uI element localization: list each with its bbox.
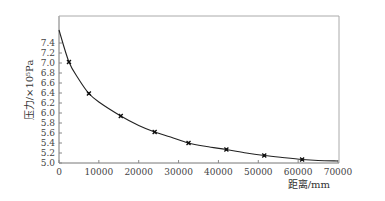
x-tick-label: 0 (56, 167, 62, 177)
x-tick-label: 30000 (164, 167, 193, 177)
x-tick-label: 40000 (204, 167, 233, 177)
x-tick-label: 60000 (284, 167, 313, 177)
y-tick-label: 6.6 (41, 78, 56, 88)
y-tick-label: 5.0 (41, 158, 56, 168)
y-tick-label: 6.4 (41, 88, 56, 98)
y-tick-label: 5.4 (41, 138, 56, 148)
y-tick-label: 7.4 (41, 38, 56, 48)
fitted-curve-line (59, 30, 338, 161)
y-tick-label: 7.0 (41, 58, 56, 68)
data-markers (67, 60, 304, 162)
data-point-marker (119, 114, 123, 118)
x-tick-label: 20000 (124, 167, 153, 177)
y-tick-label: 6.2 (41, 98, 55, 108)
y-axis-title: 压力/×10⁵Pa (23, 60, 35, 121)
y-tick-label: 7.2 (41, 48, 55, 58)
y-tick-label: 6.0 (41, 108, 56, 118)
x-tick-label: 10000 (85, 167, 114, 177)
y-tick-label: 6.8 (41, 68, 56, 78)
plot-frame (59, 16, 339, 163)
data-point-marker (87, 92, 91, 96)
y-tick-label: 5.2 (41, 148, 55, 158)
x-axis-title: 距离/mm (288, 178, 331, 190)
x-tick-label: 50000 (244, 167, 273, 177)
y-tick-label: 5.8 (41, 118, 56, 128)
pressure-distance-chart: 010000200003000040000500006000070000 5.0… (0, 0, 385, 201)
y-tick-label: 5.6 (41, 128, 56, 138)
x-tick-label: 70000 (324, 167, 353, 177)
